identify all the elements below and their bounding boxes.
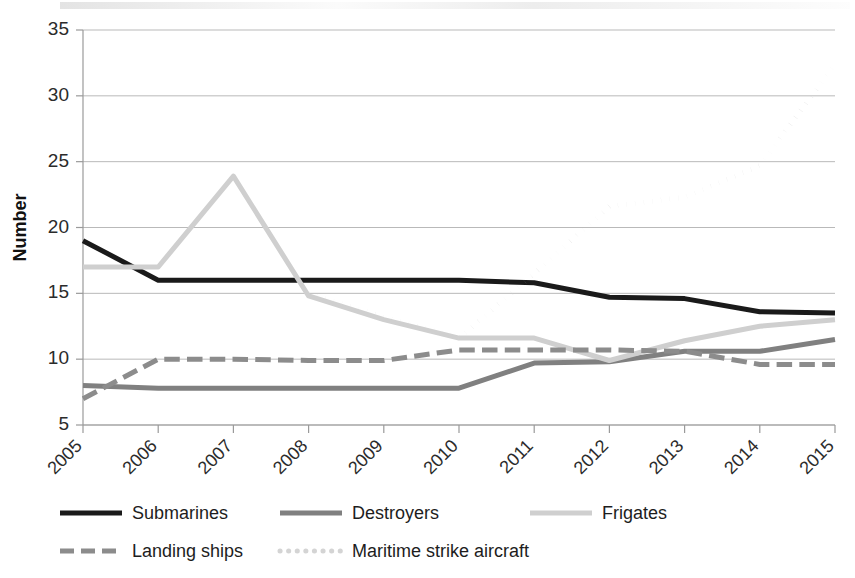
y-tick-label-5: 5 — [58, 413, 69, 434]
x-tick-label-2008: 2008 — [269, 436, 311, 478]
x-tick-label-2009: 2009 — [344, 436, 386, 478]
y-axis-title-text: Number — [10, 193, 30, 261]
series-lines — [83, 64, 835, 398]
x-tick-label-2011: 2011 — [496, 436, 538, 478]
series-line-destroyers — [83, 339, 835, 388]
series-line-submarines — [83, 241, 835, 313]
chart-legend: SubmarinesDestroyersFrigatesLanding ship… — [60, 503, 667, 561]
top-edge-artifact — [60, 2, 850, 9]
chart-canvas: 5101520253035 20052006200720082009201020… — [0, 0, 855, 578]
legend-label-destroyers: Destroyers — [352, 503, 439, 523]
y-axis-title: Number — [10, 193, 30, 261]
y-tick-label-25: 25 — [48, 150, 69, 171]
x-tick-label-2005: 2005 — [43, 436, 85, 478]
series-line-landing-ships — [83, 350, 835, 399]
series-line-frigates — [83, 176, 835, 360]
y-tick-labels: 5101520253035 — [48, 18, 69, 434]
legend-label-landing-ships: Landing ships — [132, 541, 243, 561]
gridlines — [83, 30, 835, 425]
x-tick-label-2006: 2006 — [119, 436, 161, 478]
x-tick-label-2014: 2014 — [720, 436, 762, 478]
legend-label-submarines: Submarines — [132, 503, 228, 523]
x-tick-label-2013: 2013 — [645, 436, 687, 478]
x-tick-label-2010: 2010 — [419, 436, 461, 478]
y-tick-label-20: 20 — [48, 216, 69, 237]
x-tick-label-2007: 2007 — [194, 436, 236, 478]
y-tick-label-30: 30 — [48, 84, 69, 105]
legend-label-frigates: Frigates — [602, 503, 667, 523]
line-chart: 5101520253035 20052006200720082009201020… — [0, 0, 855, 578]
y-tick-label-10: 10 — [48, 347, 69, 368]
x-tick-labels: 2005200620072008200920102011201220132014… — [43, 436, 837, 478]
x-tick-label-2015: 2015 — [795, 436, 837, 478]
legend-label-maritime-strike-aircraft: Maritime strike aircraft — [352, 541, 529, 561]
y-tick-label-35: 35 — [48, 18, 69, 39]
series-line-maritime-strike-aircraft — [309, 64, 835, 338]
x-tick-label-2012: 2012 — [570, 436, 612, 478]
y-tick-label-15: 15 — [48, 281, 69, 302]
